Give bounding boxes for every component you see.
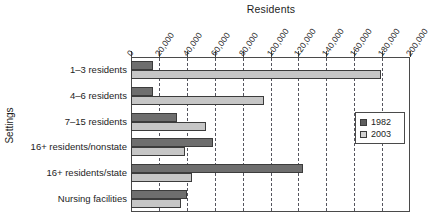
x-tick-label: 200,000 xyxy=(404,27,430,58)
legend-label: 2003 xyxy=(371,129,391,140)
x-tick-label: 120,000 xyxy=(292,27,318,58)
x-tick-label: 20,000 xyxy=(153,30,176,58)
x-tick-label: 100,000 xyxy=(264,27,290,58)
x-tick-label: 140,000 xyxy=(320,27,346,58)
gridline xyxy=(215,58,216,211)
gridline xyxy=(326,58,327,211)
bar-2003-2 xyxy=(131,96,264,105)
x-tick-label: 60,000 xyxy=(208,30,231,58)
gridline xyxy=(271,58,272,211)
bar-1982-2 xyxy=(131,87,153,96)
gridline xyxy=(243,58,244,211)
category-label: 4–6 residents xyxy=(0,90,127,101)
legend: 1982 2003 xyxy=(355,112,405,144)
bar-2003-3 xyxy=(131,122,206,131)
gridline xyxy=(187,58,188,211)
category-label: 1–3 residents xyxy=(0,64,127,75)
bar-2003-4 xyxy=(131,147,185,156)
gridline xyxy=(159,58,160,211)
legend-item: 1982 xyxy=(360,116,400,128)
bar-1982-6 xyxy=(131,190,187,199)
legend-swatch-1982-icon xyxy=(360,119,367,126)
bar-1982-5 xyxy=(131,164,303,173)
bar-chart: Residents Settings 020,00040,00060,00080… xyxy=(0,0,445,224)
category-label: 7–15 residents xyxy=(0,116,127,127)
x-tick-label: 160,000 xyxy=(348,27,374,58)
chart-title: Residents xyxy=(131,3,411,15)
x-tick-label: 180,000 xyxy=(376,27,402,58)
bar-2003-6 xyxy=(131,199,181,208)
x-tick-label: 40,000 xyxy=(181,30,204,58)
legend-swatch-2003-icon xyxy=(360,131,367,138)
bar-1982-1 xyxy=(131,61,153,70)
bar-2003-1 xyxy=(131,70,381,79)
category-label: Nursing facilities xyxy=(0,193,127,204)
gridline xyxy=(298,58,299,211)
bar-1982-3 xyxy=(131,113,177,122)
category-label: 16+ residents/nonstate xyxy=(0,141,127,152)
x-tick-label: 80,000 xyxy=(236,30,259,58)
bar-2003-5 xyxy=(131,173,192,182)
category-label: 16+ residents/state xyxy=(0,167,127,178)
legend-item: 2003 xyxy=(360,128,400,140)
bar-1982-4 xyxy=(131,138,213,147)
legend-label: 1982 xyxy=(371,117,391,128)
